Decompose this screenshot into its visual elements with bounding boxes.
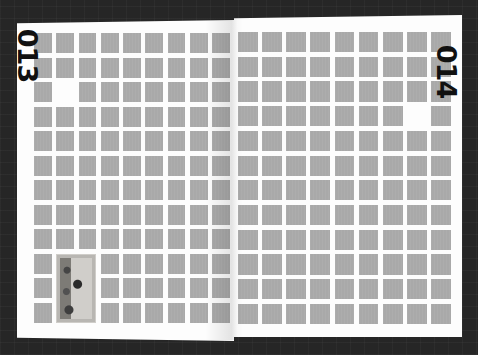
grey-grid-square xyxy=(79,205,97,225)
grey-grid-square xyxy=(310,131,330,151)
grey-grid-square xyxy=(407,81,427,101)
grey-grid-square xyxy=(123,205,141,225)
right-page-number: 014 xyxy=(433,45,460,98)
manuscript-illustration xyxy=(60,258,92,319)
grey-grid-square xyxy=(212,254,230,274)
grey-grid-square xyxy=(310,81,330,101)
grey-grid-square xyxy=(145,33,163,53)
grey-grid-square xyxy=(190,58,208,78)
grey-grid-square xyxy=(101,205,119,225)
grey-grid-square xyxy=(190,278,208,298)
grey-grid-square xyxy=(56,205,74,225)
grey-grid-square xyxy=(34,156,52,176)
grey-grid-square xyxy=(407,32,427,52)
grey-grid-square xyxy=(238,304,258,324)
grey-grid-square xyxy=(238,57,258,77)
grey-grid-square xyxy=(168,107,186,127)
grey-grid-square xyxy=(168,156,186,176)
grey-grid-square xyxy=(190,303,208,323)
grey-grid-square xyxy=(286,81,306,101)
grey-grid-square xyxy=(190,107,208,127)
grey-grid-square xyxy=(335,180,355,200)
grey-grid-square xyxy=(190,33,208,53)
grey-grid-square xyxy=(431,156,451,176)
grey-grid-square xyxy=(335,304,355,324)
grey-grid-square xyxy=(79,229,97,249)
grey-grid-square xyxy=(101,131,119,151)
grey-grid-square xyxy=(335,156,355,176)
grey-grid-square xyxy=(262,106,282,126)
grey-grid-square xyxy=(383,106,403,126)
grey-grid-square xyxy=(407,254,427,274)
grey-grid-square xyxy=(101,180,119,200)
grey-grid-square xyxy=(286,180,306,200)
grey-grid-square xyxy=(262,131,282,151)
grey-grid-square xyxy=(383,32,403,52)
grey-grid-square xyxy=(123,107,141,127)
grey-grid-square xyxy=(212,180,230,200)
grey-grid-square xyxy=(431,106,451,126)
grey-grid-square xyxy=(407,279,427,299)
grey-grid-square xyxy=(79,156,97,176)
grey-grid-square xyxy=(145,107,163,127)
grey-grid-square xyxy=(145,58,163,78)
grey-grid-square xyxy=(238,279,258,299)
grey-grid-square xyxy=(145,229,163,249)
grey-grid-square xyxy=(123,82,141,102)
grey-grid-square xyxy=(238,254,258,274)
left-page-number: 013 xyxy=(14,29,41,82)
grey-grid-square xyxy=(190,205,208,225)
grey-grid-square xyxy=(212,58,230,78)
grey-grid-square xyxy=(359,156,379,176)
grey-grid-square xyxy=(212,131,230,151)
grey-grid-square xyxy=(310,156,330,176)
grey-grid-square xyxy=(310,254,330,274)
grey-grid-square xyxy=(212,33,230,53)
grey-grid-square xyxy=(359,254,379,274)
grey-grid-square xyxy=(407,230,427,250)
grey-grid-square xyxy=(168,205,186,225)
grey-grid-square xyxy=(310,205,330,225)
grey-grid-square xyxy=(286,304,306,324)
grey-grid-square xyxy=(262,230,282,250)
left-page-grid xyxy=(34,33,230,323)
grey-grid-square xyxy=(286,254,306,274)
grey-grid-square xyxy=(238,32,258,52)
grey-grid-square xyxy=(310,180,330,200)
grey-grid-square xyxy=(101,82,119,102)
grey-grid-square xyxy=(123,229,141,249)
grey-grid-square xyxy=(168,58,186,78)
grey-grid-square xyxy=(212,303,230,323)
grey-grid-square xyxy=(335,32,355,52)
grey-grid-square xyxy=(310,230,330,250)
grey-grid-square xyxy=(262,180,282,200)
grey-grid-square xyxy=(431,304,451,324)
grey-grid-square xyxy=(168,33,186,53)
grey-grid-square xyxy=(56,156,74,176)
grey-grid-square xyxy=(359,279,379,299)
grey-grid-square xyxy=(262,304,282,324)
grey-grid-square xyxy=(238,230,258,250)
grey-grid-square xyxy=(383,279,403,299)
grey-grid-square xyxy=(79,107,97,127)
grey-grid-square xyxy=(238,205,258,225)
grey-grid-square xyxy=(212,205,230,225)
grey-grid-square xyxy=(383,254,403,274)
grey-grid-square xyxy=(168,278,186,298)
grey-grid-square xyxy=(145,278,163,298)
grey-grid-square xyxy=(431,205,451,225)
grey-grid-square xyxy=(79,58,97,78)
grey-grid-square xyxy=(123,156,141,176)
grey-grid-square xyxy=(101,107,119,127)
grey-grid-square xyxy=(168,82,186,102)
grey-grid-square xyxy=(383,205,403,225)
grey-grid-square xyxy=(335,57,355,77)
grey-grid-square xyxy=(262,57,282,77)
grey-grid-square xyxy=(212,82,230,102)
grey-grid-square xyxy=(101,278,119,298)
grey-grid-square xyxy=(145,131,163,151)
grey-grid-square xyxy=(286,57,306,77)
grey-grid-square xyxy=(101,33,119,53)
grey-grid-square xyxy=(407,180,427,200)
grey-grid-square xyxy=(359,180,379,200)
